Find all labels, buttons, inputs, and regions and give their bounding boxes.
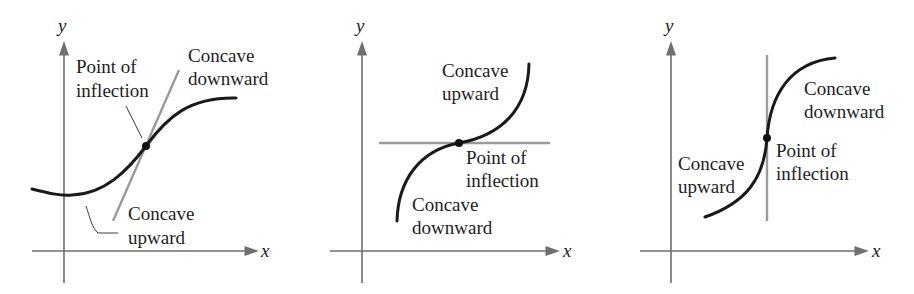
concave-up-label-line1: Concave xyxy=(678,153,744,174)
x-axis-label: x xyxy=(260,240,270,261)
y-axis-label: y xyxy=(663,15,674,36)
inflection-label-line1: Point of xyxy=(76,56,137,77)
concave-down-label-line2: downward xyxy=(412,217,493,238)
inflection-label-line1: Point of xyxy=(466,147,527,168)
curve xyxy=(32,98,236,195)
panel-oblique-tangent: y x Point of inflection Concave downward… xyxy=(32,15,270,283)
concave-up-label-line2: upward xyxy=(128,227,185,248)
x-axis-label: x xyxy=(871,240,881,261)
concave-down-label-line2: downward xyxy=(188,68,269,89)
inflection-point xyxy=(142,142,150,150)
concave-up-label-line2: upward xyxy=(678,176,735,197)
panel-horizontal-tangent: y x Concave upward Point of inflection C… xyxy=(330,15,572,283)
concave-down-label-line2: downward xyxy=(804,101,885,122)
inflection-label-line1: Point of xyxy=(776,140,837,161)
concave-up-label-line2: upward xyxy=(442,83,499,104)
inflection-label-line2: inflection xyxy=(76,80,149,101)
x-axis-label: x xyxy=(562,240,572,261)
y-axis-label: y xyxy=(354,15,365,36)
inflection-point xyxy=(455,139,463,147)
concave-up-label-line1: Concave xyxy=(442,60,508,81)
y-axis-label: y xyxy=(56,15,67,36)
concave-down-label-line1: Concave xyxy=(412,194,478,215)
inflection-point xyxy=(763,134,771,142)
concave-down-label-line1: Concave xyxy=(188,45,254,66)
inflection-label-line2: inflection xyxy=(776,163,849,184)
panel-vertical-tangent: y x Concave downward Point of inflection… xyxy=(640,15,885,283)
inflection-diagram: y x Point of inflection Concave downward… xyxy=(0,0,914,294)
concave-down-label-line1: Concave xyxy=(804,78,870,99)
inflection-leader xyxy=(126,106,142,138)
inflection-label-line2: inflection xyxy=(466,170,539,191)
concave-up-label-line1: Concave xyxy=(128,203,194,224)
